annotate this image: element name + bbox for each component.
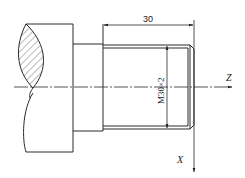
x-axis-label: X (176, 154, 184, 165)
shaft-drawing: Z X 30 M30×2 (0, 0, 245, 178)
z-axis-label: Z (226, 72, 232, 83)
thread-dimension-label: M30×2 (156, 77, 166, 104)
break-section-hatch (18, 24, 43, 88)
shaft-step (73, 24, 103, 131)
length-dimension-label: 30 (143, 14, 153, 24)
